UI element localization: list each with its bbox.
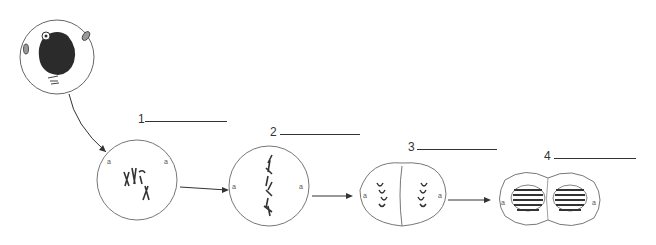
stage-2-cell: a a [229,146,309,226]
interphase-cell [20,20,94,94]
stage-1-cell: a a [97,140,177,220]
svg-text:a: a [232,183,236,190]
stage-2-answer-blank[interactable] [280,134,360,135]
svg-text:a: a [438,192,442,199]
stage-4-cell: a a [500,172,601,225]
stage-1-answer-blank[interactable] [145,121,227,122]
stage-4-number: 4 [544,149,551,163]
stage-3-cell: a a [360,163,446,226]
stage-2-number: 2 [270,125,277,139]
svg-text:a: a [164,158,168,165]
stage-3-answer-blank[interactable] [417,149,497,150]
stage-1-number: 1 [138,112,145,126]
svg-text:a: a [107,158,111,165]
stage-4-answer-blank[interactable] [554,158,636,159]
mitosis-diagram: a a a a a a a a [0,0,656,245]
svg-text:a: a [299,183,303,190]
svg-text:a: a [363,192,367,199]
stage-3-number: 3 [408,140,415,154]
diagram-drawing: a a a a a a a a [0,0,656,245]
svg-text:a: a [592,199,596,206]
svg-text:a: a [501,199,505,206]
